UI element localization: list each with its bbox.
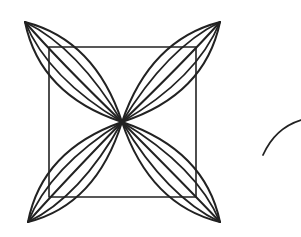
diagram-canvas bbox=[0, 0, 301, 237]
petal-bottom-right bbox=[122, 122, 220, 222]
partial-arc bbox=[263, 120, 301, 155]
petal-bottom-left bbox=[28, 122, 122, 222]
petal-top-right bbox=[122, 22, 220, 122]
petal-top-left bbox=[25, 22, 122, 122]
